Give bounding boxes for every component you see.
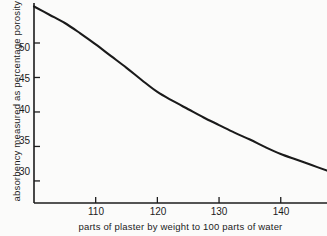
data-line-absorbency [34,6,327,170]
chart-figure: absorbency measured as percentage porosi… [0,0,327,236]
plot-area [0,0,327,236]
y-tick-marks [34,43,40,181]
x-tick-marks [96,197,281,203]
